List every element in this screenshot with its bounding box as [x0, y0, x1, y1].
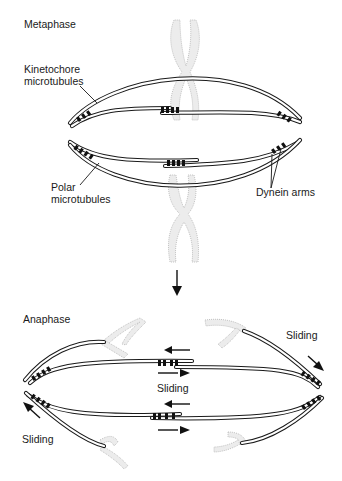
- metaphase-panel: [70, 20, 300, 262]
- down-arrow-icon: [172, 270, 182, 296]
- anaphase-polar-mt-top-right: [176, 367, 318, 387]
- kinetochore-microtubule-top: [70, 78, 300, 123]
- sliding-label-left: Sliding: [22, 433, 54, 445]
- arrow-left-icon: [164, 400, 190, 408]
- anaphase-label: Anaphase: [23, 313, 70, 325]
- sliding-label-right: Sliding: [286, 329, 318, 341]
- metaphase-chromosome-bottom: [168, 175, 198, 262]
- polar-microtubules-label: Polar microtubules: [51, 181, 111, 205]
- kinetochore-leader-line: [80, 86, 97, 103]
- arrow-down-right-icon: [308, 356, 324, 371]
- metaphase-chromosome-top: [171, 20, 200, 120]
- kinetochore-microtubules-label: Kinetochore microtubules: [24, 63, 84, 87]
- anaphase-polar-mt-top-left: [30, 361, 192, 383]
- sliding-label-center: Sliding: [157, 382, 189, 394]
- dynein-arms-label: Dynein arms: [256, 186, 315, 198]
- polar-microtubule-top-left: [72, 108, 170, 126]
- arrow-right-icon: [158, 369, 190, 377]
- metaphase-label: Metaphase: [24, 18, 76, 30]
- arrow-right-icon: [158, 426, 190, 434]
- arrow-left-icon: [164, 346, 190, 354]
